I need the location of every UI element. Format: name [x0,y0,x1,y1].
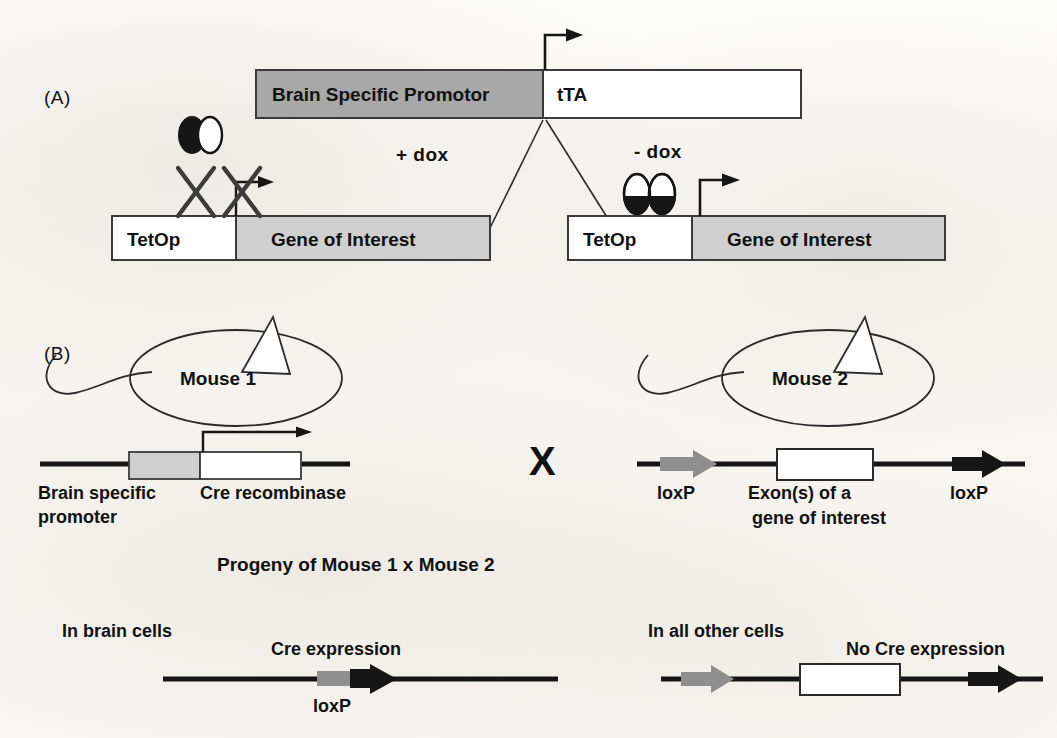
mouse-1-cre-label: Cre recombinase [200,483,346,503]
cre-transcription-arrow-icon [203,427,312,453]
plus-dox-branch: TetOp Gene of Interest [112,117,490,260]
mouse-1-ear [242,317,290,374]
recombined-loxp-arrow-icon [317,664,397,694]
gene-of-interest-label-right: Gene of Interest [727,229,872,250]
panel-b: (B) Mouse 1 [38,317,1043,716]
tta-inactive-dimer-icon [179,117,222,153]
mouse-2-loxp-left-label: loxP [657,483,695,503]
panel-a-label: (A) [44,87,71,108]
tta-label: tTA [557,84,588,105]
active-transcription-arrow-icon [700,174,740,217]
progeny-heading: Progeny of Mouse 1 x Mouse 2 [217,554,495,575]
branch-connectors [490,120,610,228]
mouse-1-cre-box [200,452,301,479]
plus-dox-label: + dox [396,144,449,165]
no-binding-cross-icon [178,168,214,216]
panel-b-label: (B) [44,343,71,364]
mouse-1-group: Mouse 1 Brain specific promoter Cre reco… [38,317,350,527]
mouse-1-promoter-label-line2: promoter [38,507,117,527]
cre-expression-label: Cre expression [271,639,401,659]
mouse-2-ear [834,317,882,374]
mouse-1-promoter-label: Brain specific [38,483,156,503]
figure-root: (A) Brain Specific Promotor tTA [0,0,1057,738]
mouse-1-construct [40,427,350,480]
mouse-2-exon-label: Exon(s) of a [748,483,852,503]
tetop-label-left: TetOp [127,229,180,250]
minus-dox-label: - dox [634,141,682,162]
in-brain-cells-label: In brain cells [62,621,172,641]
tta-active-dimer-icon [620,174,681,220]
panel-a: (A) Brain Specific Promotor tTA [44,29,945,261]
brain-cells-loxp-label: loxP [313,696,351,716]
other-cells-exon-box [800,664,900,695]
blocked-transcription-cross-icon [224,168,260,216]
no-cre-expression-label: No Cre expression [846,639,1005,659]
tta-transcription-arrow-icon [545,29,583,71]
other-cells-loxp-left-arrow-icon [681,665,734,693]
mouse-2-exon-box [777,449,873,480]
connector-to-plus-dox [490,120,543,228]
outcome-other-cells: In all other cells No Cre expression [648,621,1043,695]
loxp-left-arrow-icon [660,450,717,478]
connector-to-minus-dox [546,120,610,222]
other-cells-loxp-right-arrow-icon [968,665,1022,693]
gene-of-interest-label-left: Gene of Interest [271,229,416,250]
mouse-2-exon-label-line2: gene of interest [752,508,886,528]
mouse-2-name: Mouse 2 [772,368,848,389]
tetop-label-right: TetOp [583,229,636,250]
brain-specific-promotor-label: Brain Specific Promotor [272,84,490,105]
blocked-transcription-arrow-icon [224,168,274,216]
mouse-1-name: Mouse 1 [180,368,256,389]
mating-cross-symbol: X [529,439,556,483]
loxp-right-arrow-icon [952,450,1006,478]
in-all-other-cells-label: In all other cells [648,621,784,641]
driver-construct: Brain Specific Promotor tTA [256,29,801,119]
figure-canvas: (A) Brain Specific Promotor tTA [0,0,1057,738]
mouse-2-loxp-right-label: loxP [950,483,988,503]
minus-dox-branch: TetOp Gene of Interest [568,174,945,261]
outcome-brain-cells: In brain cells Cre expression loxP [62,621,558,716]
mouse-1-promoter-box [129,452,200,479]
mouse-2-construct [637,449,1025,480]
mouse-2-group: Mouse 2 loxP [637,317,1025,528]
